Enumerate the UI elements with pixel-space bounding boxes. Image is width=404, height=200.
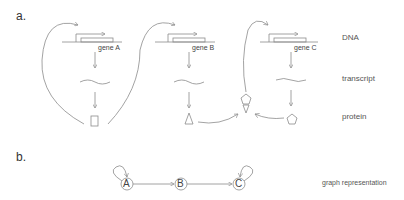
- gene-regulation-diagram: [0, 0, 404, 200]
- protein-b-triangle: [185, 113, 193, 124]
- feedback-a-to-a: [42, 23, 84, 124]
- complex-pentagon: [241, 94, 251, 104]
- gene-c-label: gene C: [294, 44, 317, 51]
- row-label-protein: protein: [342, 112, 366, 121]
- transcript-c: [276, 79, 306, 82]
- c-to-complex: [255, 114, 284, 119]
- gene-a-dna: [62, 34, 122, 42]
- complex-triangle: [243, 105, 249, 113]
- protein-c-pentagon: [287, 114, 297, 124]
- gene-b-label: gene B: [192, 44, 214, 51]
- transcript-b: [174, 80, 204, 84]
- b-to-complex: [198, 114, 238, 123]
- complex-to-c: [243, 21, 268, 92]
- transcript-a: [80, 80, 110, 84]
- regulation-a-to-b: [108, 23, 175, 124]
- node-b-label: B: [177, 178, 184, 189]
- panel-b-label: b.: [16, 150, 26, 164]
- gene-a-label: gene A: [98, 44, 120, 51]
- gene-c-dna: [260, 34, 318, 42]
- panel-a-label: a.: [16, 9, 26, 23]
- gene-b-dna: [155, 34, 215, 42]
- node-c-label: C: [235, 178, 242, 189]
- row-label-graph: graph representation: [322, 179, 387, 186]
- protein-a-rectangle: [91, 116, 98, 126]
- row-label-dna: DNA: [342, 33, 359, 42]
- row-label-transcript: transcript: [342, 74, 375, 83]
- node-a-label: A: [123, 178, 130, 189]
